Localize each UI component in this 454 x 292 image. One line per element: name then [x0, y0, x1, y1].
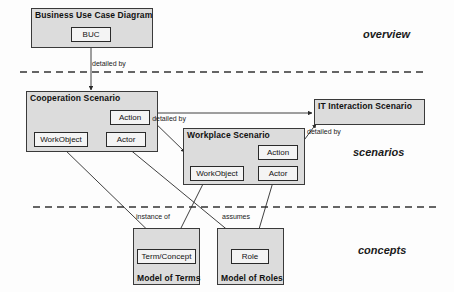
element-role[interactable]: Role — [231, 249, 269, 264]
element-label-cooperation-action: Action — [119, 113, 141, 122]
edge-label-cooperation-detailed-by: detailed by — [152, 115, 186, 123]
container-title-it-interaction-scenario: IT Interaction Scenario — [318, 101, 412, 111]
container-title-model-of-roles: Model of Roles — [221, 273, 283, 283]
element-buc[interactable]: BUC — [71, 27, 111, 42]
element-label-term-concept: Term/Concept — [142, 252, 192, 261]
zone-label-concepts: concepts — [358, 244, 406, 256]
element-label-workplace-actor: Actor — [269, 169, 288, 178]
container-title-model-of-terms: Model of Terms — [137, 273, 201, 283]
element-term-concept[interactable]: Term/Concept — [137, 249, 196, 264]
container-title-business-use-case-diagram: Business Use Case Diagram — [35, 10, 152, 20]
edge-label-instance-of: instance of — [136, 213, 170, 221]
container-title-workplace-scenario: Workplace Scenario — [187, 130, 270, 140]
container-it-interaction-scenario[interactable]: IT Interaction Scenario — [314, 99, 425, 125]
element-label-cooperation-workobject: WorkObject — [40, 135, 82, 144]
zone-label-scenarios: scenarios — [353, 146, 404, 158]
element-label-workplace-action: Action — [267, 148, 289, 157]
element-label-workplace-workobject: WorkObject — [196, 169, 238, 178]
element-label-buc: BUC — [83, 30, 100, 39]
diagram-canvas: Business Use Case Diagram BUC Cooperatio… — [0, 0, 454, 292]
element-workplace-actor[interactable]: Actor — [258, 166, 298, 181]
edge-label-workplace-detailed-by: detailed by — [307, 128, 341, 136]
element-cooperation-workobject[interactable]: WorkObject — [34, 132, 88, 147]
element-workplace-workobject[interactable]: WorkObject — [190, 166, 244, 181]
element-label-role: Role — [242, 252, 258, 261]
container-title-cooperation-scenario: Cooperation Scenario — [30, 93, 120, 103]
edge-label-assumes: assumes — [222, 213, 250, 221]
element-cooperation-actor[interactable]: Actor — [106, 132, 146, 147]
element-cooperation-action[interactable]: Action — [110, 110, 150, 125]
element-workplace-action[interactable]: Action — [258, 145, 298, 160]
edge-label-buc-detailed-by: detailed by — [92, 60, 126, 68]
element-label-cooperation-actor: Actor — [117, 135, 136, 144]
zone-label-overview: overview — [363, 28, 410, 40]
